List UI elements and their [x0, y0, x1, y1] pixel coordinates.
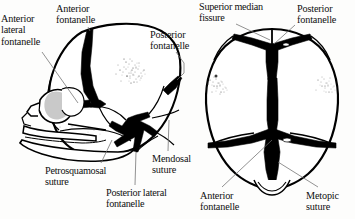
sphenoid-greater-wing [62, 88, 84, 116]
fontanelle-membrane-highlight [283, 138, 291, 142]
label-metopic-suture: Metopic suture [306, 190, 339, 213]
leader-mendosal-suture [168, 120, 169, 151]
label-anterior-fontanelle-lateral-view: Anterior fontanelle [56, 3, 95, 26]
vertex-skull-view [206, 29, 338, 195]
label-petrosquamosal-suture: Petrosquamosal suture [45, 165, 106, 188]
anatomical-figure: Anterior lateral fontanelle Anterior fon… [0, 0, 355, 219]
leader-posterior-lateral-fontanelle [135, 152, 136, 185]
label-posterior-fontanelle-vertex-view: Posterior fontanelle [297, 3, 336, 26]
nasal-bone-outline [27, 103, 39, 116]
label-posterior-lateral-fontanelle: Posterior lateral fontanelle [106, 187, 167, 210]
label-anterior-lateral-fontanelle: Anterior lateral fontanelle [1, 13, 40, 47]
label-posterior-fontanelle-lateral-view: Posterior fontanelle [150, 29, 189, 52]
label-superior-median-fissure: Superior median fissure [199, 1, 263, 24]
frontal-nasal-arch [254, 180, 290, 195]
label-mendosal-suture: Mendosal suture [152, 153, 191, 176]
sagittal-suture [267, 78, 278, 134]
posterior-membrane-highlight [283, 43, 289, 46]
label-anterior-fontanelle-vertex-view: Anterior fontanelle [200, 190, 239, 213]
